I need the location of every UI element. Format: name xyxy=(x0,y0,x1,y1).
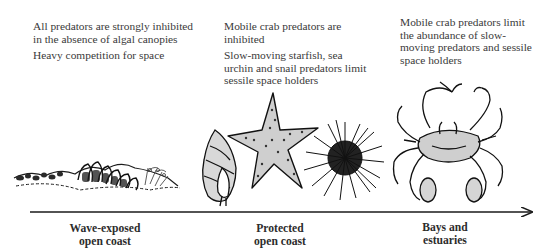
sea-urchin-icon xyxy=(304,120,384,200)
axis-label-line: Wave-exposed xyxy=(50,222,160,235)
axis-label-line: open coast xyxy=(235,235,325,248)
axis-label-line: estuaries xyxy=(400,234,490,247)
axis-label-line: open coast xyxy=(50,235,160,248)
zone-notes-protected: Mobile crab predators are inhibited Slow… xyxy=(224,20,374,91)
axis-label-line: Bays and xyxy=(400,221,490,234)
note-text: Slow-moving starfish, sea urchin and sna… xyxy=(224,49,374,87)
note-text: Mobile crab predators are inhibited xyxy=(224,20,374,45)
zone-notes-bays: Mobile crab predators limit the abundanc… xyxy=(400,16,540,70)
note-text: All predators are strongly inhibited in … xyxy=(33,20,203,45)
axis-label-line: Protected xyxy=(235,222,325,235)
note-text: Mobile crab predators limit the abundanc… xyxy=(400,16,540,66)
crab-icon xyxy=(394,82,503,202)
snail-icon xyxy=(203,130,236,206)
axis-label-protected: Protected open coast xyxy=(235,222,325,248)
note-text: Heavy competition for space xyxy=(33,49,203,62)
starfish-icon xyxy=(228,93,318,188)
zone-notes-wave-exposed: All predators are strongly inhibited in … xyxy=(33,20,203,66)
mussel-bed-icon xyxy=(14,162,180,190)
axis-label-bays: Bays and estuaries xyxy=(400,221,490,247)
axis-label-wave-exposed: Wave-exposed open coast xyxy=(50,222,160,248)
